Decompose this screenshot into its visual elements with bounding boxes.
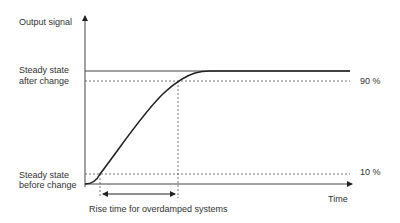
steady-state-before-label-line2: before change (19, 180, 77, 191)
y-axis-label: Output signal (19, 17, 72, 28)
ten-percent-label: 10 % (360, 167, 381, 178)
x-axis-label: Time (328, 194, 348, 205)
steady-state-after-label-line2: after change (19, 76, 69, 87)
ninety-percent-label: 90 % (360, 76, 381, 87)
rise-time-label: Rise time for overdamped systems (89, 204, 228, 215)
steady-state-after-label-line1: Steady state (19, 65, 69, 76)
response-curve (85, 71, 350, 184)
